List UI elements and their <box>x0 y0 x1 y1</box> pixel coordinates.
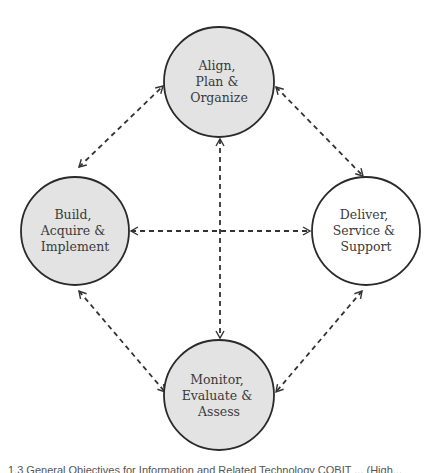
edge-bai-mea <box>79 291 165 392</box>
figure-caption: 1.3 General Objectives for Information a… <box>8 462 438 473</box>
node-apo: Align, Plan & Organize <box>164 27 274 137</box>
edge-apo-dss <box>276 87 363 176</box>
node-dss-label: Deliver, Service & Support <box>333 207 399 254</box>
node-mea: Monitor, Evaluate & Assess <box>164 340 274 450</box>
node-apo-label: Align, Plan & Organize <box>190 58 248 105</box>
cobit-domain-diagram: Align, Plan & Organize Build, Acquire & … <box>0 0 440 473</box>
node-bai: Build, Acquire & Implement <box>21 177 129 285</box>
edge-bai-apo <box>79 86 163 167</box>
node-dss: Deliver, Service & Support <box>312 177 420 285</box>
edge-dss-mea <box>276 291 362 392</box>
